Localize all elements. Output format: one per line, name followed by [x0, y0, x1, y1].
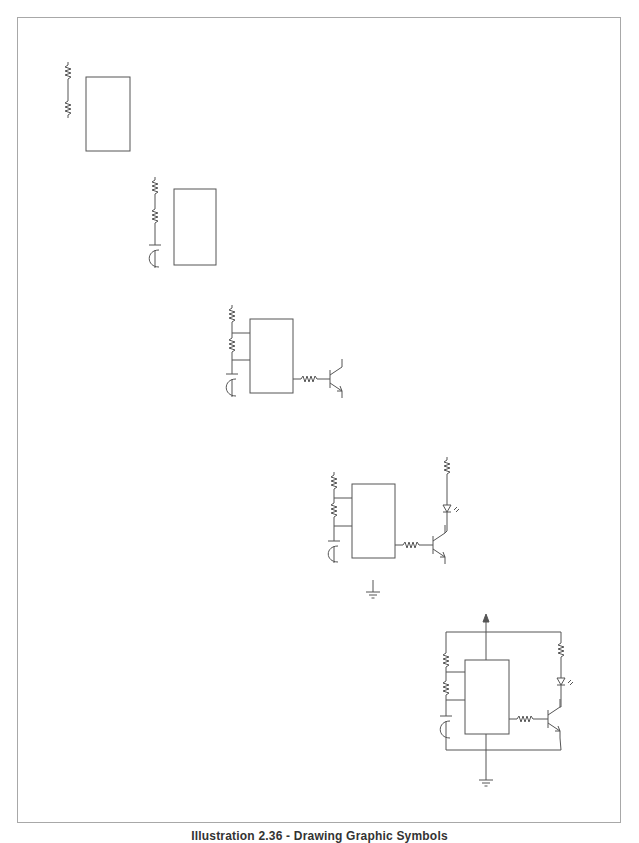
- ic-box: [465, 660, 509, 734]
- step-1-circuit: [65, 62, 130, 151]
- resistor-symbol: [331, 500, 337, 520]
- resistor-symbol: [331, 472, 337, 492]
- ic-box: [174, 189, 216, 265]
- ic-box: [86, 77, 130, 151]
- ground-symbol: [366, 580, 380, 598]
- resistor-symbol: [298, 376, 320, 382]
- resistor-symbol: [65, 62, 71, 82]
- npn-transistor-symbol: [433, 525, 445, 564]
- capacitor-symbol: [440, 712, 452, 750]
- step-5-circuit: [440, 614, 573, 786]
- step-2-circuit: [149, 177, 216, 268]
- output-arrow: [483, 614, 489, 660]
- ic-box: [352, 484, 395, 558]
- resistor-symbol: [443, 650, 449, 670]
- led-symbol: [443, 505, 459, 512]
- ground-symbol: [479, 768, 493, 786]
- resistor-symbol: [558, 640, 564, 660]
- resistor-symbol: [443, 678, 449, 698]
- capacitor-symbol: [226, 370, 238, 397]
- step-4-circuit: [328, 457, 459, 598]
- resistor-symbol: [514, 716, 536, 722]
- led-symbol: [557, 678, 573, 685]
- resistor-symbol: [400, 542, 422, 548]
- resistor-symbol: [229, 305, 235, 325]
- resistor-symbol: [152, 177, 158, 197]
- resistor-symbol: [65, 98, 71, 118]
- capacitor-symbol: [328, 537, 340, 563]
- resistor-symbol: [152, 206, 158, 226]
- step-3-circuit: [226, 305, 342, 398]
- resistor-symbol: [444, 457, 450, 477]
- figure-caption: Illustration 2.36 - Drawing Graphic Symb…: [0, 829, 639, 843]
- resistor-symbol: [229, 335, 235, 355]
- ic-box: [250, 319, 293, 393]
- npn-transistor-symbol: [548, 699, 560, 738]
- npn-transistor-symbol: [330, 359, 342, 398]
- capacitor-symbol: [149, 238, 161, 268]
